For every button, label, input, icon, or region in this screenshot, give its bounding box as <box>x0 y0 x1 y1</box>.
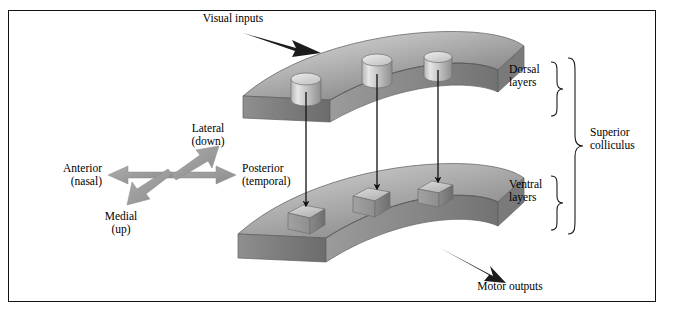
diagram-canvas <box>0 0 683 316</box>
label-medial-line1: Medial <box>90 210 152 223</box>
visual-inputs-arrow <box>243 33 321 57</box>
dorsal-cylinder-1-cap <box>291 73 321 85</box>
label-visual-inputs: Visual inputs <box>178 12 288 25</box>
label-medial-line2: (up) <box>90 223 152 236</box>
label-anterior-line2: (nasal) <box>34 175 102 188</box>
orientation-compass <box>108 146 236 205</box>
figure-root: Visual inputs Motor outputs Dorsal layer… <box>0 0 683 316</box>
brace-superior-colliculus <box>568 58 583 234</box>
label-ventral-layers-line2: layers <box>509 191 555 204</box>
label-superior-colliculus-line2: colliculus <box>590 139 656 152</box>
label-posterior-line1: Posterior <box>242 162 322 175</box>
label-dorsal-layers-line1: Dorsal <box>509 63 555 76</box>
dorsal-cylinder-3-cap <box>424 52 452 63</box>
ventral-slab-left-face <box>238 234 326 262</box>
label-lateral-line2: (down) <box>177 135 239 148</box>
label-anterior-line1: Anterior <box>34 162 102 175</box>
label-superior-colliculus-line1: Superior <box>590 126 656 139</box>
label-motor-outputs: Motor outputs <box>455 280 565 293</box>
label-dorsal-layers-line2: layers <box>509 76 555 89</box>
label-lateral-line1: Lateral <box>177 122 239 135</box>
label-posterior-line2: (temporal) <box>242 175 322 188</box>
label-ventral-layers-line1: Ventral <box>509 178 555 191</box>
motor-outputs-arrow <box>440 248 506 283</box>
dorsal-cylinder-2-cap <box>362 54 392 66</box>
